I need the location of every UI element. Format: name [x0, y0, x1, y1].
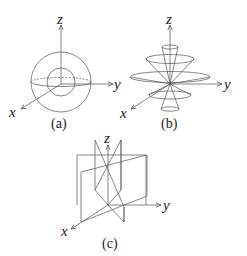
plane-slanted: [81, 155, 147, 222]
x-label: x: [60, 223, 68, 239]
x-axis: [71, 205, 108, 229]
y-label: y: [222, 76, 231, 92]
cone-section-bottom: [161, 107, 179, 111]
plane-yz: [77, 155, 146, 205]
x-axis: [131, 84, 170, 109]
y-label: y: [161, 197, 170, 213]
caption-c: (c): [102, 236, 118, 252]
diagram-a: z y x (a): [8, 11, 121, 132]
figure-canvas: z y x (a) z y x (b): [0, 0, 247, 256]
z-label: z: [103, 130, 110, 146]
x-label: x: [119, 105, 127, 121]
x-label: x: [8, 104, 16, 120]
cone-section-lower: [149, 91, 191, 99]
z-label: z: [165, 11, 172, 27]
caption-b: (b): [161, 116, 178, 132]
diagram-c: z y x (c): [60, 130, 170, 252]
caption-a: (a): [51, 116, 67, 132]
diagram-b: z y x (b): [119, 11, 231, 132]
z-label: z: [56, 11, 63, 27]
x-axis: [21, 84, 61, 109]
y-label: y: [112, 76, 121, 92]
